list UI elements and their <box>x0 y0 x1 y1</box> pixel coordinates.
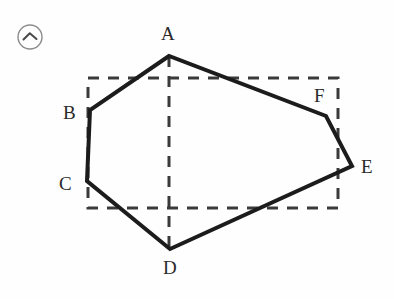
vertex-label-f: F <box>314 86 325 105</box>
geometry-figure <box>0 0 394 299</box>
vertex-label-b: B <box>63 103 76 122</box>
figure-canvas: A B C D E F <box>0 0 394 299</box>
hexagon-outline <box>87 56 352 249</box>
vertex-label-e: E <box>361 157 373 176</box>
caret-up-in-circle-icon <box>16 23 44 51</box>
vertex-label-c: C <box>59 174 72 193</box>
vertex-label-a: A <box>161 24 175 43</box>
vertex-label-d: D <box>163 258 177 277</box>
